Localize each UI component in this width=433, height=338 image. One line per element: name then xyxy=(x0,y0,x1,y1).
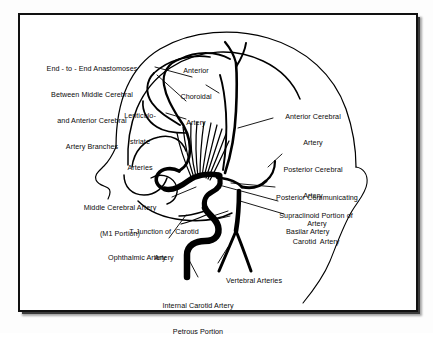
carotid-siphon-supraclinoid-segment xyxy=(204,180,220,208)
label-line: Internal Carotid Artery xyxy=(136,302,260,311)
label-line: Basilar Artery xyxy=(286,228,356,237)
diagram-canvas: End - to - End Anastomoses Between Middl… xyxy=(20,15,416,310)
label-line: Lenticulo- xyxy=(114,112,166,121)
label-line: Arteries xyxy=(114,164,166,173)
label-line: Artery xyxy=(168,119,224,128)
posterior-communicating-artery-vessel xyxy=(221,178,242,187)
label-line: Anterior xyxy=(168,67,224,76)
leader-anterior-cerebral xyxy=(238,118,273,128)
label-anterior-choroidal-artery: Anterior Choroidal Artery xyxy=(168,50,224,145)
label-line: Petrous Portion xyxy=(136,328,260,337)
label-line: End - to - End Anastomoses xyxy=(28,65,156,74)
label-internal-carotid-artery-petrous: Internal Carotid Artery Petrous Portion xyxy=(136,285,260,338)
figure-plate: End - to - End Anastomoses Between Middl… xyxy=(18,13,418,312)
label-line: striate xyxy=(114,138,166,147)
label-line: T-Junction of Carotid xyxy=(114,228,214,237)
label-line: Posterior Cerebral xyxy=(270,166,356,175)
label-basilar-artery: Basilar Artery xyxy=(286,211,356,254)
label-line: Artery xyxy=(273,139,353,148)
label-line: Choroidal xyxy=(168,93,224,102)
label-line: Anterior Cerebral xyxy=(273,113,353,122)
basilar-artery-vessel xyxy=(236,191,239,231)
label-ophthalmic-artery: Ophthalmic Artery xyxy=(66,237,166,280)
label-line: Ophthalmic Artery xyxy=(66,254,166,263)
label-lenticulostriate-arteries: Lenticulo- striate Arteries xyxy=(114,95,166,190)
